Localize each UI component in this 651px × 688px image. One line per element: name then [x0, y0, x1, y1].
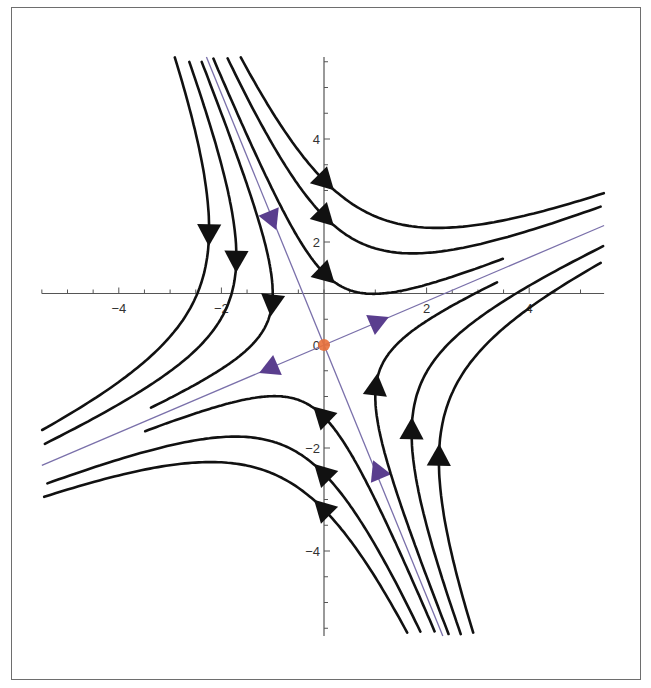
streamline [145, 396, 434, 631]
flow-arrow-icon [197, 224, 221, 246]
y-tick-label: 2 [313, 235, 320, 250]
x-tick-label: −4 [111, 301, 126, 316]
flow-arrow-icon [399, 417, 423, 439]
phase-portrait-chart: −4−224420−2−4 [0, 0, 651, 688]
flow-arrow-icon [363, 374, 387, 397]
streamline [241, 57, 604, 228]
flow-arrow-icon [261, 293, 285, 316]
streamline [42, 57, 209, 430]
flow-arrow-icon [427, 444, 451, 466]
y-tick-label: −4 [305, 544, 320, 559]
streamline [213, 59, 502, 294]
equilibrium-layer [318, 339, 330, 351]
y-tick-label: −2 [305, 441, 320, 456]
streamline [439, 263, 601, 633]
saddle-point-marker [318, 339, 330, 351]
streamline [228, 58, 601, 253]
streamline [47, 437, 420, 632]
flow-arrow-icon [224, 251, 248, 273]
streamline [44, 462, 407, 633]
y-tick-label: 4 [313, 132, 320, 147]
